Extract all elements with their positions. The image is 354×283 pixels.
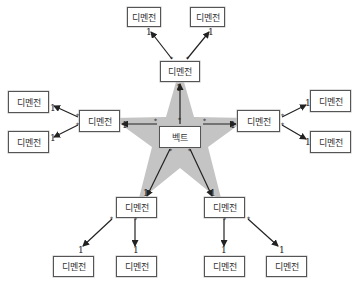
dimension-label: 디멘전 (88, 115, 112, 128)
multiplicity-many: * (281, 122, 284, 128)
multiplicity-one: 1 (50, 104, 56, 113)
dimension-box-right-bottom-outer: 디멘전 (310, 131, 351, 153)
dimension-label: 디멘전 (213, 260, 237, 273)
multiplicity-one: 1 (221, 246, 227, 255)
dimension-label: 디멘전 (132, 11, 156, 24)
dimension-label: 디멘전 (319, 95, 343, 108)
dimension-box-right-top-outer: 디멘전 (310, 90, 351, 112)
dimension-box-left-bottom-outer: 디멘전 (8, 131, 49, 153)
dimension-box-right: 디멘전 (237, 110, 280, 132)
multiplicity-many: * (178, 117, 181, 123)
dimension-label: 디멘전 (247, 115, 271, 128)
multiplicity-many: * (110, 216, 113, 222)
dimension-box-bottom-right: 디멘전 (204, 197, 245, 218)
multiplicity-many: * (169, 148, 172, 154)
dimension-box-bottom-outer-4: 디멘전 (266, 256, 307, 277)
dimension-label: 디멘전 (168, 65, 192, 78)
multiplicity-one: 1 (143, 189, 149, 198)
dimension-box-bottom-outer-1: 디멘전 (53, 256, 94, 277)
multiplicity-one: 1 (208, 28, 214, 37)
dimension-label: 디멘전 (319, 136, 343, 149)
dimension-label: 디멘전 (275, 260, 299, 273)
dimension-label: 디멘전 (196, 11, 220, 24)
multiplicity-many: * (281, 113, 284, 119)
dimension-box-bottom-outer-3: 디멘전 (204, 256, 245, 277)
multiplicity-one: 1 (230, 121, 236, 130)
dimension-label: 디멘전 (62, 260, 86, 273)
multiplicity-one: 1 (305, 138, 311, 147)
dimension-box-left-top-outer: 디멘전 (8, 91, 49, 113)
dimension-label: 디멘전 (17, 96, 41, 109)
dimension-box-bottom-left: 디멘전 (116, 197, 157, 218)
multiplicity-many: * (247, 216, 250, 222)
multiplicity-many: * (188, 148, 191, 154)
dimension-box-left: 디멘전 (79, 110, 120, 132)
fact-table-box: 벡트 (159, 126, 201, 148)
multiplicity-many: * (223, 217, 226, 223)
multiplicity-many: * (154, 118, 157, 124)
multiplicity-many: * (170, 56, 173, 62)
multiplicity-many: * (76, 122, 79, 128)
multiplicity-one: 1 (305, 99, 311, 108)
dimension-label: 디멘전 (125, 260, 149, 273)
multiplicity-one: 1 (279, 246, 285, 255)
multiplicity-one: 1 (176, 84, 182, 93)
dimension-box-top: 디멘전 (160, 61, 200, 82)
multiplicity-one: 1 (210, 189, 216, 198)
dimension-box-top-right-outer: 디멘전 (190, 7, 225, 27)
dimension-box-bottom-outer-2: 디멘전 (116, 256, 157, 277)
multiplicity-many: * (76, 113, 79, 119)
multiplicity-one: 1 (133, 246, 139, 255)
dimension-label: 디멘전 (17, 136, 41, 149)
multiplicity-one: 1 (50, 134, 56, 143)
multiplicity-many: * (186, 56, 189, 62)
dimension-box-top-left-outer: 디멘전 (127, 7, 161, 27)
dimension-label: 디멘전 (125, 201, 149, 214)
multiplicity-one: 1 (146, 28, 152, 37)
multiplicity-one: 1 (122, 121, 128, 130)
multiplicity-many: * (203, 118, 206, 124)
snowflake-schema-diagram: 벡트 디멘전 디멘전 디멘전 디멘전 디멘전 디멘전 디멘전 디멘전 디멘전 디… (0, 0, 354, 283)
multiplicity-one: 1 (78, 246, 84, 255)
fact-table-label: 벡트 (172, 131, 188, 144)
dimension-label: 디멘전 (213, 201, 237, 214)
multiplicity-many: * (134, 217, 137, 223)
